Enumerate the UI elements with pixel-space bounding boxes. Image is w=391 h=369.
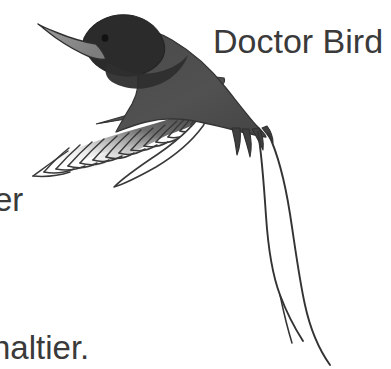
bird-eye — [102, 34, 109, 42]
bottom-text-fragment: naltier. — [0, 331, 89, 364]
tail-coverts-group — [232, 126, 273, 157]
page-canvas: Doctor Bird er naltier. — [0, 0, 391, 369]
tail-streamer-outer — [268, 133, 330, 365]
tail-streamers-group — [258, 132, 330, 365]
page-title: Doctor Bird — [213, 24, 383, 58]
tail-streamer-inner — [258, 132, 303, 341]
left-text-fragment: er — [0, 183, 23, 216]
